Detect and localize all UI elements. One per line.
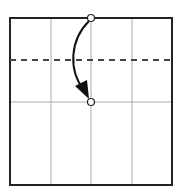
fold-arrow-icon — [73, 21, 89, 90]
reference-point-target — [88, 99, 95, 106]
reference-point-top — [88, 15, 95, 22]
arrowhead-icon — [75, 80, 89, 99]
origami-diagram — [0, 0, 178, 194]
